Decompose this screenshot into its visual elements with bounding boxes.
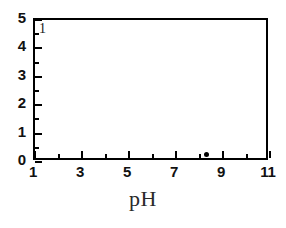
x-tick-major	[81, 151, 83, 158]
x-tick-minor	[199, 154, 201, 158]
x-tick-major	[222, 151, 224, 158]
x-tick-label: 9	[206, 163, 236, 180]
y-tick-label: 3	[4, 66, 26, 84]
x-tick-major	[269, 151, 271, 158]
x-tick-label: 11	[253, 163, 283, 180]
plot-area	[33, 18, 268, 160]
x-tick-label: 5	[112, 163, 142, 180]
y-tick-label: 4	[4, 37, 26, 55]
x-axis-title: pH	[0, 186, 286, 212]
y-tick-major	[35, 76, 42, 78]
x-tick-minor	[152, 154, 154, 158]
x-tick-label: 7	[159, 163, 189, 180]
y-tick-minor	[35, 147, 39, 149]
y-tick-label: 2	[4, 94, 26, 112]
y-tick-minor	[35, 90, 39, 92]
y-tick-major	[35, 104, 42, 106]
x-tick-minor	[58, 154, 60, 158]
y-tick-major	[35, 47, 42, 49]
x-tick-label: 3	[65, 163, 95, 180]
y-tick-minor	[35, 62, 39, 64]
x-tick-major	[128, 151, 130, 158]
chart-figure: 1357911012345 1 pH	[0, 0, 286, 228]
y-tick-label: 0	[4, 151, 26, 169]
x-tick-minor	[246, 154, 248, 158]
y-tick-label: 1	[4, 123, 26, 141]
y-tick-label: 5	[4, 9, 26, 27]
x-tick-major	[34, 151, 36, 158]
y-tick-major	[35, 133, 42, 135]
x-tick-major	[175, 151, 177, 158]
panel-label: 1	[39, 22, 46, 36]
x-tick-minor	[105, 154, 107, 158]
y-tick-minor	[35, 118, 39, 120]
